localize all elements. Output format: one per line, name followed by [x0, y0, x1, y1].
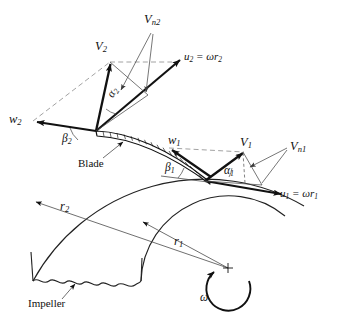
label-impeller: Impeller — [28, 298, 65, 309]
label-alpha1: α1 — [224, 165, 234, 178]
label-u1: u1 = ωr1 — [280, 188, 318, 201]
label-r1: r1 — [174, 235, 183, 249]
center-of-rotation-marker — [223, 263, 233, 273]
label-Vn2: Vn2 — [144, 13, 160, 27]
label-beta2: β2 — [62, 133, 72, 146]
impeller-left-edge — [31, 252, 33, 281]
blade-shape — [96, 131, 210, 184]
impeller-broken-edge — [33, 280, 141, 287]
label-blade: Blade — [78, 158, 104, 169]
label-u2: u2 = ωr2 — [184, 51, 222, 64]
label-w2: w2 — [9, 113, 22, 127]
label-r2: r2 — [60, 200, 69, 214]
inner-radius-arc — [141, 196, 285, 281]
label-beta1: β1 — [165, 162, 175, 175]
inlet-normal-side-a — [243, 152, 262, 185]
blade-outline — [96, 131, 210, 184]
outer-radius-arc — [33, 179, 304, 281]
label-Vn1: Vn1 — [290, 140, 306, 154]
inlet-normal-drop — [243, 153, 245, 183]
label-V1: V1 — [240, 136, 252, 150]
label-omega: ω — [200, 292, 208, 304]
label-w1: w1 — [168, 134, 181, 148]
angle-arc-beta1 — [178, 168, 184, 178]
label-V2: V2 — [95, 40, 107, 54]
leader-Vn1-b — [262, 150, 287, 183]
radius-line-r1 — [143, 222, 228, 268]
omega-rotation-arrow — [206, 272, 250, 311]
leader-Vn2 — [121, 33, 151, 90]
impeller-inner-edge — [141, 258, 142, 281]
leader-blade — [103, 142, 123, 158]
outlet-dashed-closure — [33, 62, 110, 121]
impeller-body — [31, 179, 304, 286]
outlet-normal-side-b — [96, 95, 148, 131]
angle-arc-alpha2 — [106, 109, 116, 114]
inlet-dashed-closure — [169, 148, 244, 152]
radius-dimensions — [36, 202, 250, 311]
vector-w2 — [37, 122, 96, 131]
